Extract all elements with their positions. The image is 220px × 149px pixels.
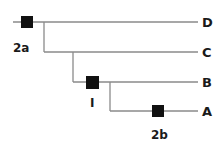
marker-i-box	[86, 76, 99, 89]
taxon-label-a: A	[202, 104, 212, 119]
taxon-label-d: D	[202, 15, 213, 30]
marker-2a-box	[21, 16, 33, 28]
cladogram: D C B A 2a I 2b	[0, 0, 220, 149]
marker-label-2b: 2b	[151, 128, 168, 142]
marker-label-i: I	[90, 96, 94, 110]
marker-2b-box	[152, 105, 164, 117]
taxon-label-c: C	[202, 45, 212, 60]
marker-label-2a: 2a	[13, 41, 29, 55]
taxon-label-b: B	[202, 75, 212, 90]
